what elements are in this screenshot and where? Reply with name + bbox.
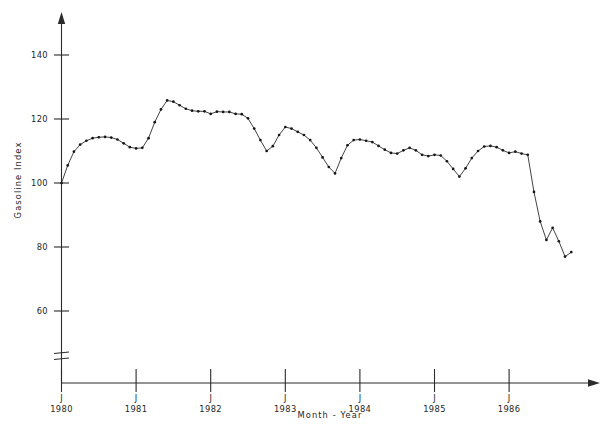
data-point bbox=[290, 127, 293, 130]
data-point bbox=[85, 139, 88, 142]
data-point bbox=[66, 164, 69, 167]
data-point bbox=[160, 108, 163, 111]
x-tick-month-letter: J bbox=[283, 393, 286, 403]
series-markers bbox=[60, 99, 572, 258]
y-tick-label: 80 bbox=[37, 242, 48, 252]
data-point bbox=[495, 146, 498, 149]
y-axis: 6080100120140 bbox=[31, 12, 69, 383]
data-point bbox=[365, 139, 368, 142]
x-axis-tick-labels: J1980J1981J1982J1983J1984J1985J1986 bbox=[50, 393, 520, 414]
x-tick-month-letter: J bbox=[358, 393, 361, 403]
data-point bbox=[334, 172, 337, 175]
data-point bbox=[377, 145, 380, 148]
data-point bbox=[421, 153, 424, 156]
y-tick-label: 140 bbox=[31, 50, 48, 60]
data-point bbox=[203, 110, 206, 113]
data-point bbox=[402, 149, 405, 152]
line-chart-canvas: 6080100120140 J1980J1981J1982J1983J1984J… bbox=[0, 0, 610, 429]
y-tick-label: 120 bbox=[31, 114, 48, 124]
x-tick-year-label: 1986 bbox=[498, 404, 521, 414]
data-point bbox=[315, 146, 318, 149]
chart-figure: 6080100120140 J1980J1981J1982J1983J1984J… bbox=[0, 0, 610, 429]
y-axis-tick-labels: 6080100120140 bbox=[31, 50, 48, 316]
data-series-gasoline-index bbox=[60, 99, 572, 258]
data-point bbox=[104, 136, 107, 139]
data-point bbox=[564, 255, 567, 258]
data-point bbox=[359, 138, 362, 141]
data-point bbox=[520, 152, 523, 155]
x-tick-month-letter: J bbox=[208, 393, 211, 403]
x-tick-year-label: 1983 bbox=[274, 404, 297, 414]
data-point bbox=[551, 226, 554, 229]
data-point bbox=[209, 113, 212, 116]
data-point bbox=[477, 150, 480, 153]
data-point bbox=[247, 117, 250, 120]
data-point bbox=[129, 146, 132, 149]
x-tick-year-label: 1985 bbox=[423, 404, 446, 414]
x-tick-year-label: 1980 bbox=[50, 404, 73, 414]
data-point bbox=[557, 240, 560, 243]
data-point bbox=[191, 109, 194, 112]
data-point bbox=[539, 220, 542, 223]
data-point bbox=[122, 142, 125, 145]
data-point bbox=[502, 149, 505, 152]
data-point bbox=[352, 139, 355, 142]
data-point bbox=[483, 145, 486, 148]
data-point bbox=[97, 136, 100, 139]
x-axis-arrow-icon bbox=[588, 379, 600, 386]
data-point bbox=[79, 143, 82, 146]
data-point bbox=[489, 145, 492, 148]
data-point bbox=[135, 147, 138, 150]
x-tick-month-letter: J bbox=[507, 393, 510, 403]
y-tick-label: 100 bbox=[31, 178, 48, 188]
data-point bbox=[327, 166, 330, 169]
data-point bbox=[433, 153, 436, 156]
data-point bbox=[60, 182, 63, 185]
x-tick-month-letter: J bbox=[59, 393, 62, 403]
data-point bbox=[346, 144, 349, 147]
data-point bbox=[228, 111, 231, 114]
data-point bbox=[458, 175, 461, 178]
data-point bbox=[570, 251, 573, 254]
data-point bbox=[452, 168, 455, 171]
y-axis-arrow-icon bbox=[58, 12, 65, 24]
data-point bbox=[272, 145, 275, 148]
data-point bbox=[296, 130, 299, 133]
data-point bbox=[240, 113, 243, 116]
data-point bbox=[259, 139, 262, 142]
data-point bbox=[73, 150, 76, 153]
data-point bbox=[545, 239, 548, 242]
data-point bbox=[116, 138, 119, 141]
data-point bbox=[166, 99, 169, 102]
data-point bbox=[464, 167, 467, 170]
data-point bbox=[533, 191, 536, 194]
data-point bbox=[265, 150, 268, 153]
data-point bbox=[526, 153, 529, 156]
x-axis: J1980J1981J1982J1983J1984J1985J1986 bbox=[50, 369, 600, 414]
data-point bbox=[153, 121, 156, 124]
data-point bbox=[408, 146, 411, 149]
data-point bbox=[446, 160, 449, 163]
data-point bbox=[141, 146, 144, 149]
data-point bbox=[147, 137, 150, 140]
x-axis-title: Month - Year bbox=[297, 410, 362, 420]
data-point bbox=[321, 156, 324, 159]
data-point bbox=[508, 152, 511, 155]
y-axis-title: Gasoline Index bbox=[13, 142, 23, 219]
x-tick-month-letter: J bbox=[432, 393, 435, 403]
data-point bbox=[340, 157, 343, 160]
x-axis-ticks bbox=[62, 369, 510, 392]
data-point bbox=[222, 111, 225, 114]
data-point bbox=[184, 107, 187, 110]
x-tick-month-letter: J bbox=[134, 393, 137, 403]
data-point bbox=[172, 100, 175, 103]
data-point bbox=[216, 110, 219, 113]
data-point bbox=[234, 113, 237, 116]
data-point bbox=[197, 110, 200, 113]
data-point bbox=[309, 139, 312, 142]
x-tick-year-label: 1981 bbox=[125, 404, 148, 414]
data-point bbox=[371, 141, 374, 144]
data-point bbox=[110, 136, 113, 139]
data-point bbox=[427, 155, 430, 158]
data-point bbox=[284, 126, 287, 129]
